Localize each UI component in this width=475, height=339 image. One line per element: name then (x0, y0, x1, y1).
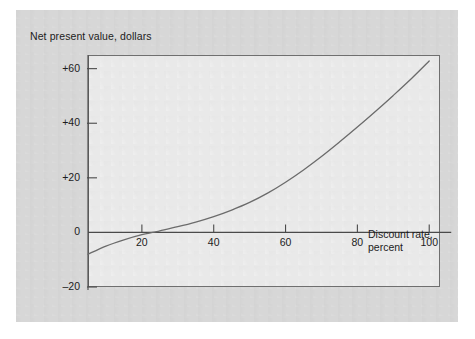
tick-mark-group (87, 69, 429, 287)
x-tick-label-40: 40 (194, 236, 234, 248)
x-tick-label-20: 20 (122, 236, 162, 248)
y-tick-label--20: –20 (32, 280, 80, 292)
figure-root: Net present value, dollars Discount rate… (0, 0, 475, 339)
y-tick-label-+20: +20 (32, 171, 80, 183)
axis-group (88, 55, 451, 290)
x-tick-label-60: 60 (266, 236, 306, 248)
x-tick-label-100: 100 (409, 236, 449, 248)
y-tick-label-+40: +40 (32, 116, 80, 128)
npv-curve-line (88, 61, 429, 254)
y-tick-label-0: 0 (32, 225, 80, 237)
x-tick-label-80: 80 (337, 236, 377, 248)
y-tick-label-+60: +60 (32, 62, 80, 74)
